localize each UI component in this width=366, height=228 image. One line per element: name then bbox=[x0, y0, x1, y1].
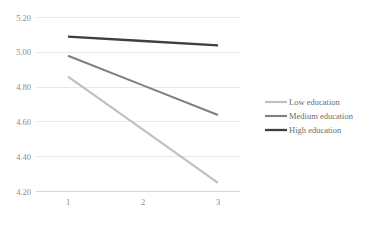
y-tick-label: 5.20 bbox=[16, 13, 31, 23]
legend-label-medium-education: Medium education bbox=[289, 111, 354, 121]
y-tick-label: 4.20 bbox=[16, 187, 31, 197]
x-tick-label: 3 bbox=[216, 197, 220, 207]
y-tick-label: 4.40 bbox=[16, 152, 31, 162]
x-tick-label: 2 bbox=[141, 197, 145, 207]
line-chart: 5.20 5.00 4.80 4.60 4.40 4.20 1 2 3 Low … bbox=[0, 0, 366, 228]
x-tick-label: 1 bbox=[66, 197, 70, 207]
legend-label-low-education: Low education bbox=[289, 97, 340, 107]
y-tick-label: 5.00 bbox=[16, 47, 31, 57]
chart-canvas: 5.20 5.00 4.80 4.60 4.40 4.20 1 2 3 Low … bbox=[0, 0, 366, 228]
y-tick-label: 4.80 bbox=[16, 82, 31, 92]
y-tick-label: 4.60 bbox=[16, 117, 31, 127]
legend-label-high-education: High education bbox=[289, 125, 342, 135]
